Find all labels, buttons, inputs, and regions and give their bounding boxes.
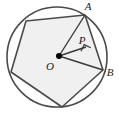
label-O: O	[46, 60, 54, 72]
label-A: A	[84, 0, 92, 12]
inscribed-pentagon	[11, 15, 103, 107]
label-P: P	[78, 34, 86, 46]
geometry-figure: A B P O	[0, 0, 119, 116]
geometry-diagram: A B P O	[0, 0, 119, 116]
label-B: B	[107, 66, 114, 78]
point-O-dot	[56, 53, 62, 59]
